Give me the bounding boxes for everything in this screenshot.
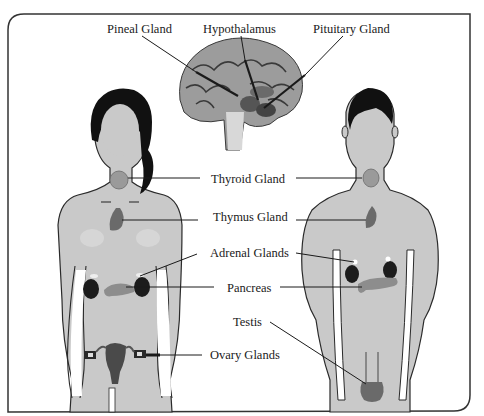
label-adrenal-glands: Adrenal Glands xyxy=(210,246,289,260)
label-pineal-gland: Pineal Gland xyxy=(107,22,172,36)
label-pituitary-gland: Pituitary Gland xyxy=(313,22,390,36)
male-testis xyxy=(360,382,383,402)
male-kidney-left xyxy=(345,265,359,283)
female-thyroid xyxy=(110,171,128,189)
label-thymus-gland: Thymus Gland xyxy=(213,210,288,224)
male-kidney-right xyxy=(383,261,397,279)
label-ovary-glands: Ovary Glands xyxy=(210,348,280,362)
label-pancreas: Pancreas xyxy=(227,281,271,295)
female-kidney-left xyxy=(83,279,99,299)
label-testis: Testis xyxy=(233,315,262,329)
label-hypothalamus: Hypothalamus xyxy=(203,22,276,36)
male-thyroid xyxy=(363,169,379,187)
label-thyroid-gland: Thyroid Gland xyxy=(211,172,285,186)
